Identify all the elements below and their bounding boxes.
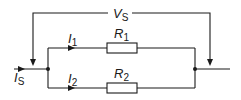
current-1-label: I1 [68,31,78,48]
resistor-1-label: R1 [114,26,129,43]
junction-right [193,67,197,71]
resistor-r2 [107,83,137,93]
resistor-2-label: R2 [114,66,129,83]
circuit-diagram: VS I1 R1 I2 R2 IS [0,0,241,100]
voltage-arrow-left-icon [30,59,36,66]
current-2-label: I2 [68,71,78,88]
junction-left [46,67,50,71]
resistor-r1 [107,43,137,53]
voltage-bracket-right [132,13,210,63]
voltage-label: VS [113,6,129,23]
source-current-label: IS [14,70,25,87]
voltage-arrow-right-icon [207,59,213,66]
source-current-arrow-icon [18,66,25,72]
